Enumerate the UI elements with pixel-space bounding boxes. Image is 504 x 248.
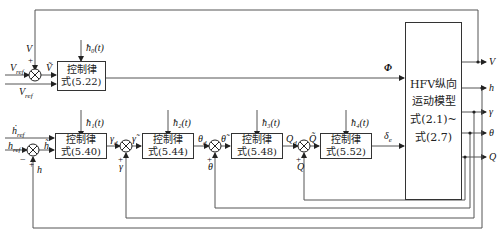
plant-line1: HFV纵向 xyxy=(410,76,457,94)
block-line2: 式(5.48) xyxy=(237,146,277,159)
block-line2: 式(5.22) xyxy=(61,76,101,89)
label-minus: − xyxy=(20,155,26,165)
label-V-feedback: V xyxy=(26,44,32,54)
label-V-tilde: Ṽ xyxy=(46,63,52,73)
label-h-ref-dot: ḣref xyxy=(12,126,25,139)
label-theta-d: θd xyxy=(198,134,206,147)
output-theta: θ xyxy=(489,128,494,138)
control-law-5-44-block: 控制律 式(5.44) xyxy=(142,133,194,159)
label-h3: ħ₃(t) xyxy=(262,118,280,128)
label-Phi: Φ xyxy=(384,63,392,73)
label-V-ref-bypass: Vref xyxy=(19,87,33,100)
block-line1: 控制律 xyxy=(153,134,183,147)
block-line1: 控制律 xyxy=(242,134,272,147)
label-theta: θ xyxy=(208,162,213,172)
label-plus-h: + xyxy=(29,160,34,169)
label-h-ref: href xyxy=(8,141,21,154)
block-line1: 控制律 xyxy=(331,134,361,147)
block-line1: 控制律 xyxy=(67,64,97,77)
label-delta-e: δe xyxy=(384,131,392,144)
label-V-ref: Vref xyxy=(10,63,24,76)
control-law-5-40-block: 控制律 式(5.40) xyxy=(55,133,107,159)
plant-line2: 运动模型 xyxy=(412,93,456,111)
label-h4: ħ₄(t) xyxy=(351,118,369,128)
hfv-plant-block: HFV纵向 运动模型 式(2.1)~ 式(2.7) xyxy=(405,22,462,200)
control-law-5-22-block: 控制律 式(5.22) xyxy=(57,61,106,91)
control-law-5-52-block: 控制律 式(5.52) xyxy=(320,133,372,159)
output-Q: Q xyxy=(489,152,496,162)
label-gamma-tilde: γ̃ xyxy=(132,134,136,144)
block-line2: 式(5.40) xyxy=(61,146,101,159)
block-line1: 控制律 xyxy=(66,134,96,147)
plant-line4: 式(2.7) xyxy=(415,129,452,147)
label-Q: Q xyxy=(297,162,304,172)
label-Q-tilde: Q̃ xyxy=(309,134,316,144)
control-law-5-48-block: 控制律 式(5.48) xyxy=(231,133,283,159)
label-Q-d: Qd xyxy=(286,134,297,147)
output-V: V xyxy=(489,57,495,67)
label-theta-tilde: θ̃ xyxy=(221,134,226,144)
label-h0: ħ₀(t) xyxy=(86,43,104,53)
output-gamma: γ xyxy=(489,107,493,117)
output-h: h xyxy=(489,83,494,93)
label-plus: + xyxy=(28,56,33,65)
label-h: h xyxy=(37,165,42,175)
label-gamma-d: γd xyxy=(110,134,117,147)
label-gamma: γ xyxy=(119,162,123,172)
block-line2: 式(5.52) xyxy=(326,146,366,159)
label-h-tilde: h̃ xyxy=(44,141,49,151)
label-h2: ħ₂(t) xyxy=(173,118,191,128)
label-h1: ħ₁(t) xyxy=(86,118,104,128)
block-line2: 式(5.44) xyxy=(148,146,188,159)
plant-line3: 式(2.1)~ xyxy=(410,111,456,129)
